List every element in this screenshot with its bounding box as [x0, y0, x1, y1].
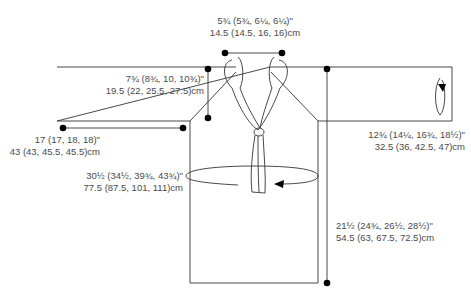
sleeve-dot-right	[180, 125, 187, 132]
collar-left	[225, 57, 261, 130]
neck-width-inches: 5¾ (5¾, 6¼, 6¼)"	[200, 15, 310, 27]
upper-arm-inches: 12¾ (14¼, 16¾, 18½)"	[340, 129, 465, 141]
body-length-label: 21½ (24¾, 26½, 28½)" 54.5 (63, 67.5, 72.…	[336, 220, 466, 244]
armhole-dot-bottom	[205, 115, 212, 122]
right-neck-diagonal	[271, 72, 318, 121]
body-dot-bottom	[324, 280, 331, 287]
sleeve-length-cm: 43 (43, 45.5, 45.5)cm	[0, 146, 100, 158]
sleeve-length-label: 17 (17, 18, 18)" 43 (43, 45.5, 45.5)cm	[0, 134, 100, 158]
sleeve-length-inches: 17 (17, 18, 18)"	[0, 134, 100, 146]
upper-arm-cm: 32.5 (36, 42.5, 47)cm	[340, 141, 465, 153]
chest-cm: 77.5 (87.5, 101, 111)cm	[70, 182, 183, 194]
neck-dot-right	[279, 50, 286, 57]
chest-circ-ellipse	[186, 166, 318, 185]
body-length-inches: 21½ (24¾, 26½, 28½)"	[336, 220, 466, 232]
chest-label: 30½ (34½, 39¾, 43¾)" 77.5 (87.5, 101, 11…	[70, 170, 183, 194]
collar-right	[258, 57, 287, 130]
upper-arm-label: 12¾ (14¼, 16¾, 18½)" 32.5 (36, 42.5, 47)…	[340, 129, 465, 153]
armhole-depth-inches: 7¾ (8¾, 10, 10¾)"	[100, 73, 204, 85]
neck-width-label: 5¾ (5¾, 6¼, 6¼)" 14.5 (14.5, 16, 16)cm	[200, 15, 310, 39]
armhole-depth-label: 7¾ (8¾, 10, 10¾)" 19.5 (22, 25.5, 27.5)c…	[100, 73, 204, 97]
collar-tie	[251, 135, 265, 193]
neck-width-cm: 14.5 (14.5, 16, 16)cm	[200, 27, 310, 39]
neck-dot-left	[222, 50, 229, 57]
body-length-cm: 54.5 (63, 67.5, 72.5)cm	[336, 232, 466, 244]
armhole-depth-cm: 19.5 (22, 25.5, 27.5)cm	[100, 85, 204, 97]
armhole-dot-top	[205, 66, 212, 73]
chest-inches: 30½ (34½, 39¾, 43¾)"	[70, 170, 183, 182]
sleeve-dot-left	[60, 125, 67, 132]
body-dot-top	[324, 66, 331, 73]
sleeve-circ-ellipse	[436, 78, 445, 115]
chest-arrow-icon	[274, 180, 284, 188]
